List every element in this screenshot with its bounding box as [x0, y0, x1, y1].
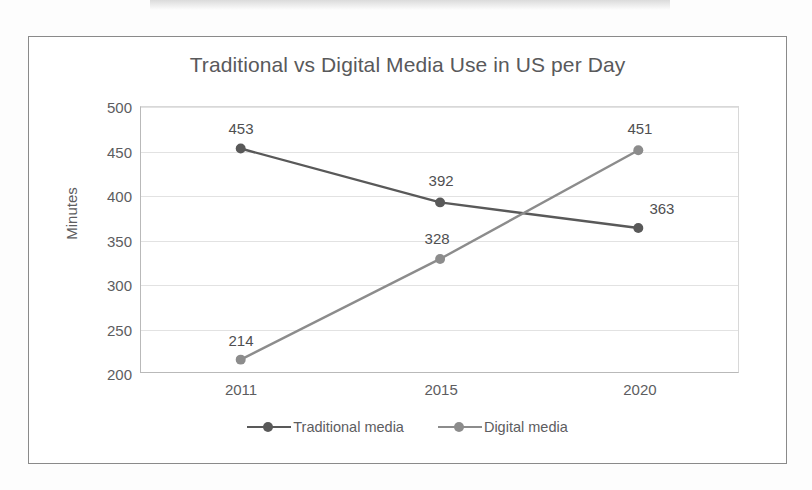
- y-tick-label: 200: [107, 366, 132, 383]
- y-tick-label: 350: [107, 232, 132, 249]
- data-point-marker: [435, 254, 445, 264]
- x-tick-label: 2015: [424, 381, 457, 398]
- legend-label: Traditional media: [293, 419, 404, 435]
- y-tick-label: 300: [107, 277, 132, 294]
- data-point-marker: [633, 145, 643, 155]
- y-tick-label: 400: [107, 188, 132, 205]
- x-tick-label: 2011: [225, 381, 257, 398]
- data-point-marker: [236, 355, 246, 365]
- legend-marker-icon: [247, 421, 291, 433]
- plot-area: 200250300350400450500 201120152020 45339…: [140, 106, 739, 373]
- legend-label: Digital media: [484, 419, 568, 435]
- legend-item[interactable]: Traditional media: [247, 419, 404, 435]
- data-point-label: 328: [425, 230, 450, 247]
- chart-frame: Traditional vs Digital Media Use in US p…: [28, 36, 787, 464]
- legend-dot-icon: [454, 422, 464, 432]
- data-point-label: 451: [627, 120, 652, 137]
- y-tick-label: 500: [107, 99, 132, 116]
- y-tick-label: 250: [107, 321, 132, 338]
- data-point-label: 363: [649, 200, 674, 217]
- page-background: Traditional vs Digital Media Use in US p…: [0, 0, 812, 490]
- chart-legend: Traditional mediaDigital media: [29, 419, 786, 435]
- data-point-marker: [633, 223, 643, 233]
- data-point-marker: [435, 197, 445, 207]
- legend-marker-icon: [438, 421, 482, 433]
- data-point-label: 392: [429, 172, 454, 189]
- data-point-label: 453: [229, 120, 254, 137]
- chart-title: Traditional vs Digital Media Use in US p…: [29, 53, 786, 77]
- scan-artifact: [150, 0, 670, 10]
- legend-item[interactable]: Digital media: [438, 419, 568, 435]
- data-point-label: 214: [229, 332, 254, 349]
- y-axis-title: Minutes: [63, 154, 80, 274]
- legend-dot-icon: [263, 422, 273, 432]
- x-tick-label: 2020: [623, 381, 656, 398]
- y-tick-label: 450: [107, 143, 132, 160]
- data-point-marker: [236, 144, 246, 154]
